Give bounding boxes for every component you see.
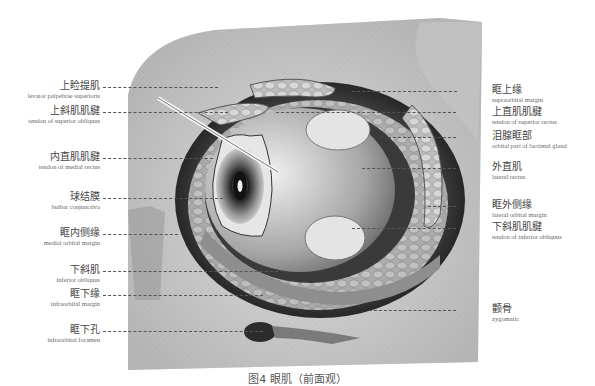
label-lateral-orbital-margin: 眶外侧缘 lateral orbital margin [492, 200, 547, 219]
label-tendon-inferior-obliquus: 下斜肌肌腱 tendon of inferior obliquus [492, 222, 562, 241]
leader-line [103, 87, 218, 88]
leader-line [352, 228, 456, 229]
leader-line [103, 295, 263, 296]
label-levator-palpebrae-superioris: 上睑提肌 levator palpebrae superioris [0, 81, 100, 100]
label-tendon-medial-rectus: 内直肌肌腱 tendon of medial rectus [0, 152, 100, 171]
label-tendon-superior-rectus: 上直肌肌腱 tendon of superior rectus [492, 107, 557, 126]
leader-line [352, 91, 457, 92]
label-lacrimal-gland-orbital-part: 泪腺眶部 orbital part of lacrimal gland [492, 131, 567, 150]
label-infraorbital-foramen: 眶下孔 infraorbital foramen [0, 325, 100, 344]
leader-line [103, 112, 228, 113]
label-bulbar-conjunctiva: 球结膜 bulbar conjunctiva [0, 192, 100, 211]
label-lateral-rectus: 外直肌 lateral rectus [492, 162, 525, 181]
label-inferior-obliquus: 下斜肌 inferior obliquus [0, 265, 100, 284]
figure-caption: 图4 眼肌（前面观） [0, 370, 595, 386]
leader-line [103, 158, 213, 159]
leader-line [428, 206, 456, 207]
leader-line [369, 310, 456, 311]
leader-line [103, 271, 278, 272]
leader-line [388, 137, 456, 138]
label-zygomatic: 颧骨 zygomatic [492, 304, 519, 323]
leader-line [103, 331, 263, 332]
label-supraorbital-margin: 眶上缘 supraorbital margin [492, 85, 543, 104]
label-infraorbital-margin: 眶下缘 infraorbital margin [0, 289, 100, 308]
leader-line [103, 234, 178, 235]
leader-line [276, 112, 456, 113]
label-medial-orbital-margin: 眶内侧缘 medial orbital margin [0, 228, 100, 247]
label-tendon-superior-obliquus: 上斜肌肌腱 tendon of superior obliquus [0, 106, 100, 125]
leader-line [362, 168, 456, 169]
leader-line [103, 198, 223, 199]
